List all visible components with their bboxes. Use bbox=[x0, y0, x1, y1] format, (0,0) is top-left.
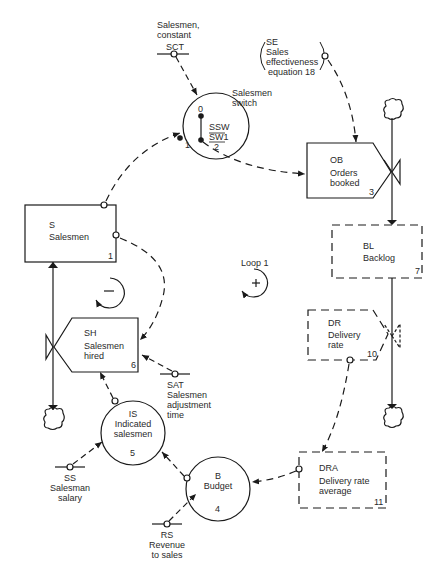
ss-line1: Salesman bbox=[40, 483, 100, 493]
dra-number: 11 bbox=[374, 497, 383, 507]
se-to-ob-link bbox=[328, 60, 356, 142]
ob-source-cloud bbox=[384, 99, 404, 120]
sct-to-switch-link bbox=[176, 57, 197, 95]
sh-line2: hired bbox=[84, 351, 104, 361]
is-connector bbox=[112, 398, 118, 404]
s-top-connector bbox=[101, 202, 107, 208]
sh-valve-icon bbox=[46, 335, 53, 359]
s-number: 1 bbox=[108, 251, 113, 261]
ob-line1: Orders bbox=[330, 168, 358, 178]
ob-code: OB bbox=[330, 155, 343, 165]
switch-sw1: SW1 bbox=[209, 132, 229, 142]
sct-label-line2: constant bbox=[157, 30, 191, 40]
sat-code: SAT bbox=[167, 380, 184, 390]
dr-line1: Delivery bbox=[328, 330, 361, 340]
bl-backlog-box bbox=[332, 225, 422, 278]
switch-pos1: 1 bbox=[185, 140, 190, 150]
s-to-sh-link bbox=[120, 238, 164, 340]
sct-label-line1: Salesmen, bbox=[157, 20, 200, 30]
rs-code: RS bbox=[137, 530, 197, 540]
dra-line1: Delivery rate bbox=[319, 476, 370, 486]
bl-line1: Backlog bbox=[363, 253, 395, 263]
ss-code: SS bbox=[40, 473, 100, 483]
switch-title-line1: Salesmen bbox=[232, 88, 272, 98]
se-line2: effectiveness bbox=[266, 57, 318, 67]
s-code: S bbox=[49, 220, 55, 230]
s-right-connector bbox=[113, 232, 119, 238]
is-line1: Indicated bbox=[103, 419, 163, 429]
sat-connector bbox=[172, 371, 178, 377]
dra-connector bbox=[296, 466, 302, 472]
budget-to-is-link bbox=[162, 452, 184, 476]
sct-code: SCT bbox=[166, 42, 184, 52]
is-number: 5 bbox=[130, 448, 135, 458]
dra-line2: average bbox=[319, 486, 352, 496]
ob-line2: booked bbox=[330, 178, 360, 188]
dr-connector bbox=[347, 357, 353, 363]
se-connector bbox=[322, 53, 328, 59]
bl-number: 7 bbox=[415, 266, 420, 276]
dr-line2: rate bbox=[328, 340, 344, 350]
ss-line2: salary bbox=[40, 493, 100, 503]
is-to-sh-link bbox=[100, 372, 113, 398]
left-source-cloud bbox=[44, 408, 65, 430]
sh-line1: Salesmen bbox=[84, 341, 124, 351]
rs-connector bbox=[164, 521, 170, 527]
switch-ssw: SSW bbox=[209, 122, 230, 132]
sat-line3: time bbox=[167, 410, 184, 420]
switch-title-line2: switch bbox=[232, 98, 257, 108]
s-to-switch-link bbox=[106, 133, 180, 201]
dra-to-budget-link bbox=[252, 471, 296, 482]
dra-code: DRA bbox=[319, 463, 338, 473]
loop1-label: Loop 1 bbox=[241, 258, 269, 268]
sat-line2: adjustment bbox=[167, 400, 211, 410]
dr-to-dra-link bbox=[322, 364, 349, 452]
se-line1: Sales bbox=[266, 47, 289, 57]
rs-line2: to sales bbox=[137, 550, 197, 560]
bl-code: BL bbox=[363, 241, 374, 251]
se-line3: equation 18 bbox=[268, 67, 315, 77]
dr-number: 10 bbox=[367, 349, 377, 359]
is-line2: salesmen bbox=[103, 429, 163, 439]
sat-line1: Salesmen bbox=[167, 390, 207, 400]
rs-line1: Revenue bbox=[137, 540, 197, 550]
se-code: SE bbox=[266, 37, 278, 47]
dr-code: DR bbox=[328, 318, 341, 328]
b-line1: Budget bbox=[188, 481, 248, 491]
sh-number: 6 bbox=[131, 360, 136, 370]
switch-eq-number: 2 bbox=[214, 142, 219, 152]
b-number: 4 bbox=[215, 504, 220, 514]
is-code: IS bbox=[103, 409, 163, 419]
sh-code: SH bbox=[84, 328, 97, 338]
right-sink-cloud bbox=[384, 407, 404, 428]
switch-pos0: 0 bbox=[198, 104, 203, 114]
ob-number: 3 bbox=[369, 187, 374, 197]
b-code: B bbox=[188, 471, 248, 481]
s-line1: Salesmen bbox=[49, 232, 89, 242]
ss-to-is-link bbox=[73, 442, 102, 464]
ss-connector bbox=[67, 464, 73, 470]
loop-negative-icon bbox=[96, 278, 124, 308]
sat-to-sh-link bbox=[142, 355, 172, 371]
